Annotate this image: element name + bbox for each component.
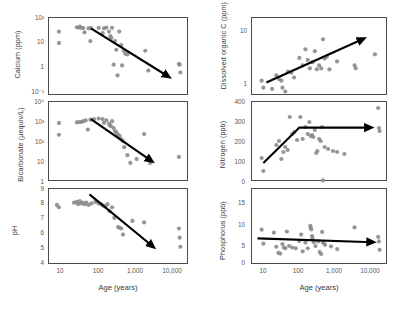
data-point — [121, 233, 125, 237]
data-point — [178, 236, 182, 240]
data-point — [315, 67, 319, 71]
plot-area-ph — [49, 189, 189, 265]
data-point — [260, 156, 264, 160]
ytick-doc-0: 10 — [229, 27, 247, 34]
ytick-p-0: 15 — [225, 199, 245, 206]
xtick-left-3: 10,000 — [155, 267, 189, 274]
xtick-right-1: 100 — [285, 267, 311, 274]
data-point — [326, 147, 330, 151]
data-point — [313, 49, 317, 53]
data-point — [177, 155, 181, 159]
dots-bicarbonate — [57, 116, 181, 165]
data-point — [320, 230, 324, 234]
data-point — [142, 220, 146, 224]
axis-label-calcium: Calcium (ppm) — [13, 20, 22, 90]
ytick-bicarb-0: 10⁴ — [22, 98, 44, 105]
data-point — [285, 229, 289, 233]
data-point — [335, 59, 339, 63]
trend-arrow-bicarbonate — [91, 119, 152, 161]
data-point — [303, 240, 307, 244]
ytick-p-1: 10 — [225, 221, 245, 228]
data-point — [376, 235, 380, 239]
axis-label-x-right: Age (years) — [279, 283, 359, 292]
data-point — [274, 143, 278, 147]
data-point — [130, 219, 134, 223]
plot-frame-bicarbonate — [48, 101, 188, 181]
plot-area-phosphorus — [252, 189, 388, 265]
data-point — [354, 66, 358, 70]
data-point — [378, 129, 382, 133]
data-point — [57, 133, 61, 137]
data-point — [119, 226, 123, 230]
data-point — [88, 39, 92, 43]
data-point — [323, 243, 327, 247]
ytick-ph-2: 7 — [26, 214, 44, 221]
xtick-left-0: 10 — [47, 267, 73, 274]
ytick-n-2: 200 — [221, 138, 245, 145]
data-point — [81, 26, 85, 30]
right-panel-column: Dissolved organic C (ppm) 10 1 Nitrogen … — [199, 0, 398, 315]
data-point — [277, 139, 281, 143]
data-point — [104, 25, 108, 29]
data-point — [378, 248, 382, 252]
data-point — [323, 145, 327, 149]
data-point — [142, 132, 146, 136]
data-point — [321, 37, 325, 41]
multi-panel-scatter-figure: Calcium (ppm) 10² 10 1 10⁻¹ Bicarbonate … — [0, 0, 398, 315]
plot-frame-calcium — [48, 17, 188, 95]
data-point — [117, 29, 121, 33]
data-point — [143, 49, 147, 53]
ytick-ph-3: 6 — [26, 229, 44, 236]
data-point — [107, 29, 111, 33]
data-point — [327, 67, 331, 71]
data-point — [301, 249, 305, 253]
data-point — [298, 115, 302, 119]
axis-label-doc-line1: Dissolved organic C (ppm) — [219, 2, 228, 89]
plot-area-nitrogen — [252, 102, 388, 182]
data-point — [110, 205, 114, 209]
data-point — [306, 58, 310, 62]
ytick-calcium-2: 1 — [22, 63, 44, 70]
data-point — [335, 150, 339, 154]
data-point — [274, 245, 278, 249]
data-point — [261, 86, 265, 90]
axis-label-doc: Dissolved organic C (ppm) — [220, 15, 228, 89]
data-point — [260, 228, 264, 232]
data-point — [278, 252, 282, 256]
data-point — [97, 26, 101, 30]
ytick-calcium-3: 10⁻¹ — [22, 88, 44, 95]
data-point — [283, 89, 287, 93]
data-point — [319, 252, 323, 256]
data-point — [290, 245, 294, 249]
data-point — [279, 157, 283, 161]
ytick-bicarb-3: 10 — [22, 158, 44, 165]
data-point — [319, 66, 323, 70]
data-point — [178, 63, 182, 67]
ytick-n-3: 100 — [221, 158, 245, 165]
ytick-n-4: 0 — [221, 178, 245, 185]
ytick-ph-0: 9 — [26, 185, 44, 192]
data-point — [97, 116, 101, 120]
data-point — [280, 86, 284, 90]
data-point — [376, 106, 380, 110]
data-point — [281, 150, 285, 154]
axis-label-ph: pH — [10, 219, 19, 243]
data-point — [260, 79, 264, 83]
data-point — [110, 26, 114, 30]
data-point — [342, 152, 346, 156]
plot-area-bicarbonate — [49, 102, 189, 182]
data-point — [331, 149, 335, 153]
data-point — [303, 47, 307, 51]
data-point — [115, 73, 119, 77]
data-point — [110, 119, 114, 123]
data-point — [146, 68, 150, 72]
data-point — [125, 153, 129, 157]
data-point — [311, 135, 315, 139]
data-point — [177, 226, 181, 230]
data-point — [104, 118, 108, 122]
data-point — [288, 115, 292, 119]
data-point — [329, 244, 333, 248]
data-point — [279, 79, 283, 83]
data-point — [112, 63, 116, 67]
plot-frame-nitrogen — [251, 101, 387, 181]
